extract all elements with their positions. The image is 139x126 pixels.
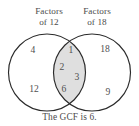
intersection-value-4: 6 bbox=[62, 84, 67, 94]
intersection-value-1: 1 bbox=[69, 45, 74, 55]
intersection-value-3: 3 bbox=[75, 72, 80, 82]
venn-diagram-figure: Factors of 12 Factors of 18 4 12 1 2 3 6… bbox=[0, 0, 139, 126]
right-only-value-2: 9 bbox=[106, 87, 111, 97]
figure-caption: The GCF is 6. bbox=[0, 112, 139, 123]
venn-circles bbox=[0, 0, 139, 126]
left-only-value-2: 12 bbox=[29, 84, 39, 94]
intersection-value-2: 2 bbox=[60, 62, 65, 72]
right-only-value-1: 18 bbox=[100, 44, 110, 54]
left-only-value-1: 4 bbox=[31, 45, 36, 55]
